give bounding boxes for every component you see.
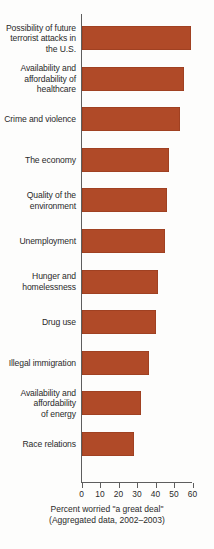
x-tick [193, 483, 194, 488]
bar-category-label: Crime and violence [0, 114, 76, 124]
x-tick-label: 50 [169, 489, 178, 499]
bar-track [82, 391, 202, 415]
bar-row: Crime and violence [0, 99, 214, 140]
bar-chart: Possibility of future terrorist attacks … [0, 0, 214, 549]
bar-category-label: The economy [0, 155, 76, 165]
bar-row: Race relations [0, 424, 214, 465]
x-axis-label: Percent worried "a great deal" [0, 504, 214, 515]
x-tick [137, 483, 138, 488]
bar [82, 107, 180, 131]
bar-row: Possibility of future terrorist attacks … [0, 18, 214, 59]
x-tick [82, 483, 83, 488]
x-tick-label: 30 [132, 489, 141, 499]
bar-row: Quality of the environment [0, 180, 214, 221]
bar-row: Drug use [0, 302, 214, 343]
bar-category-label: Hunger and homelessness [0, 271, 76, 292]
x-tick [119, 483, 120, 488]
bar [82, 391, 141, 415]
x-tick-label: 10 [95, 489, 104, 499]
x-tick [174, 483, 175, 488]
bar [82, 310, 156, 334]
bar [82, 229, 165, 253]
bar-track [82, 67, 202, 91]
bar-track [82, 229, 202, 253]
x-axis: 0102030405060 Percent worried "a great d… [0, 482, 214, 549]
bar [82, 67, 184, 91]
bar-category-label: Possibility of future terrorist attacks … [0, 23, 76, 54]
bar-track [82, 432, 202, 456]
bar-category-label: Availability and affordability of health… [0, 63, 76, 94]
bar-category-label: Unemployment [0, 236, 76, 246]
bar-track [82, 26, 202, 50]
x-tick [156, 483, 157, 488]
x-tick-label: 20 [114, 489, 123, 499]
bar [82, 148, 169, 172]
bar-row: Availability and affordability of energy [0, 383, 214, 424]
x-tick-label: 40 [151, 489, 160, 499]
bar-category-label: Availability and affordability of energy [0, 388, 76, 419]
x-axis-caption: Percent worried "a great deal" (Aggregat… [0, 504, 214, 526]
bar-track [82, 351, 202, 375]
bar-row: Hunger and homelessness [0, 262, 214, 303]
bar-row: Illegal immigration [0, 343, 214, 384]
x-axis-note: (Aggregated data, 2002–2003) [0, 515, 214, 526]
bar-track [82, 270, 202, 294]
bar-row: The economy [0, 140, 214, 181]
bar [82, 432, 134, 456]
x-tick-label: 60 [188, 489, 197, 499]
bar-category-label: Quality of the environment [0, 190, 76, 211]
bar-row: Unemployment [0, 221, 214, 262]
bar-row: Availability and affordability of health… [0, 59, 214, 100]
bar-track [82, 188, 202, 212]
bar [82, 351, 149, 375]
bar-category-label: Race relations [0, 439, 76, 449]
bar-track [82, 310, 202, 334]
bar-rows: Possibility of future terrorist attacks … [0, 18, 214, 465]
bar-category-label: Drug use [0, 317, 76, 327]
bar-track [82, 107, 202, 131]
bar [82, 270, 158, 294]
plot-area: Possibility of future terrorist attacks … [0, 0, 214, 484]
bar [82, 188, 167, 212]
bar [82, 26, 191, 50]
bar-category-label: Illegal immigration [0, 358, 76, 368]
x-tick-label: 0 [79, 489, 84, 499]
bar-track [82, 148, 202, 172]
x-tick [100, 483, 101, 488]
